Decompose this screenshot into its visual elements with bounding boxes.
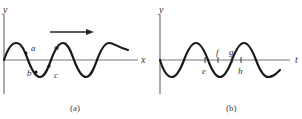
wave-diagram: y x a b c d (a) y t e f g bbox=[0, 0, 302, 119]
tick-g-label: g bbox=[229, 47, 234, 57]
point-c-label: c bbox=[54, 70, 58, 80]
tick-e-label: e bbox=[202, 66, 206, 76]
x-axis-label-a: x bbox=[140, 54, 146, 65]
point-b-marker bbox=[34, 70, 37, 73]
caption-b: (b) bbox=[226, 103, 237, 113]
point-b-label: b bbox=[27, 68, 32, 78]
point-d-label: d bbox=[54, 42, 59, 52]
tick-h-label: h bbox=[238, 66, 243, 76]
point-a-marker bbox=[24, 51, 27, 54]
point-c-marker bbox=[47, 64, 50, 67]
point-a-label: a bbox=[31, 43, 36, 53]
tick-f-label: f bbox=[216, 47, 220, 57]
panel-b: y t e f g h (b) bbox=[158, 4, 298, 113]
t-axis-label-b: t bbox=[295, 54, 298, 65]
y-axis-label-b: y bbox=[158, 4, 164, 15]
caption-a: (a) bbox=[70, 103, 80, 113]
y-axis-label-a: y bbox=[2, 4, 8, 15]
panel-a: y x a b c d (a) bbox=[2, 4, 146, 113]
arrow-right-icon bbox=[50, 29, 94, 35]
